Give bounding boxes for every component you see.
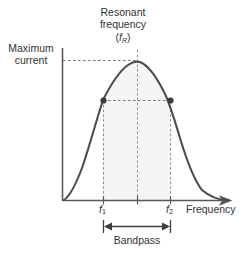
resonance-curve-figure: Resonant frequency (fR) Maximum current … [0,0,246,255]
chart-title-line-2: frequency [0,18,246,30]
y-axis-label: Maximum current [2,42,60,67]
x-axis-tick-label-f1: f1 [99,203,106,217]
x-axis-label: Frequency [186,203,236,215]
x-axis-tick-label-f2: f2 [166,203,173,217]
f1-subscript: 1 [102,207,106,216]
bandpass-right-arrowhead-icon [162,223,170,231]
half-power-point-marker-f1 [100,97,106,103]
bandpass-left-arrowhead-icon [104,223,112,231]
bandpass-label: Bandpass [92,234,182,246]
f2-subscript: 2 [169,207,173,216]
half-power-point-marker-f2 [167,97,173,103]
chart-title: Resonant frequency (fR) [0,6,246,45]
paren-close: ) [127,31,131,43]
y-axis-label-line-1: Maximum [2,42,60,54]
chart-title-line-1: Resonant [0,6,246,18]
y-axis-label-line-2: current [2,54,60,66]
